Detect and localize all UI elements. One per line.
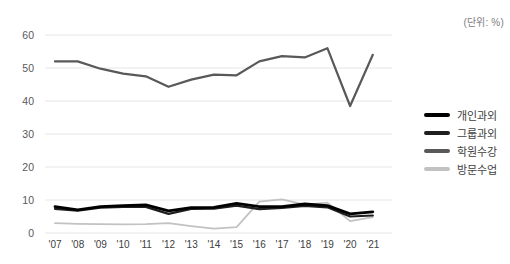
y-axis-tick-label: 50 xyxy=(22,62,34,74)
x-axis-tick-label: '12 xyxy=(162,239,175,250)
legend-item: 방문수업 xyxy=(424,163,497,175)
y-axis-tick-label: 10 xyxy=(22,194,34,206)
x-axis-tick-label: '18 xyxy=(298,239,311,250)
y-axis-tick-label: 30 xyxy=(22,128,34,140)
series-line xyxy=(55,48,373,106)
x-axis-tick-label: '08 xyxy=(71,239,84,250)
x-axis-tick-label: '20 xyxy=(344,239,357,250)
x-axis-tick-label: '16 xyxy=(253,239,266,250)
chart-page: (단위: %) 0102030405060'07'08'09'10'11'12'… xyxy=(0,0,510,264)
x-axis-tick-label: '15 xyxy=(230,239,243,250)
legend: 개인과외그룹과외학원수강방문수업 xyxy=(424,109,497,175)
x-axis-tick-label: '17 xyxy=(275,239,288,250)
x-axis-tick-label: '10 xyxy=(117,239,130,250)
legend-label: 방문수업 xyxy=(457,161,497,177)
x-axis-tick-label: '14 xyxy=(207,239,220,250)
legend-item: 개인과외 xyxy=(424,109,497,121)
y-axis-tick-label: 20 xyxy=(22,161,34,173)
y-axis-tick-label: 60 xyxy=(22,29,34,41)
legend-line-swatch-icon xyxy=(424,167,450,171)
legend-label: 그룹과외 xyxy=(457,125,497,141)
x-axis-tick-label: '11 xyxy=(140,239,153,250)
y-axis-tick-label: 0 xyxy=(28,227,34,239)
x-axis-tick-label: '21 xyxy=(366,239,379,250)
x-axis-tick-label: '09 xyxy=(94,239,107,250)
legend-item: 학원수강 xyxy=(424,145,497,157)
legend-line-swatch-icon xyxy=(424,113,450,117)
x-axis-tick-label: '07 xyxy=(48,239,61,250)
x-axis-tick-label: '13 xyxy=(185,239,198,250)
x-axis-tick-label: '19 xyxy=(321,239,334,250)
legend-label: 개인과외 xyxy=(457,107,497,123)
legend-label: 학원수강 xyxy=(457,143,497,159)
legend-line-swatch-icon xyxy=(424,131,450,135)
legend-line-swatch-icon xyxy=(424,149,450,153)
series-line xyxy=(55,199,373,228)
y-axis-tick-label: 40 xyxy=(22,95,34,107)
legend-item: 그룹과외 xyxy=(424,127,497,139)
